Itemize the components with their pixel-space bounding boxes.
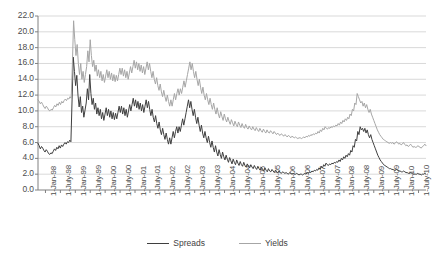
- legend-item-spreads[interactable]: Spreads: [147, 238, 205, 248]
- y-tick-label: 6.0: [0, 138, 34, 147]
- x-tick-label: 1-July-99: [94, 165, 103, 196]
- legend-label-yields: Yields: [265, 238, 288, 248]
- x-tick-label: 1-July-05: [273, 165, 282, 196]
- x-tick-label: 1-Jan-06: [288, 166, 297, 196]
- x-tick-label: 1-July-98: [64, 165, 73, 196]
- x-tick-label: 1-Jan-04: [228, 166, 237, 196]
- x-tick-label: 1-Jan-08: [347, 166, 356, 196]
- x-tick-label: 1-Jan-10: [407, 166, 416, 196]
- x-tick-label: 1-July-00: [124, 165, 133, 196]
- y-tick-label: 22.0: [0, 11, 34, 20]
- y-tick-label: 8.0: [0, 122, 34, 131]
- chart-container: Spreads Yields 0.02.04.06.08.010.012.014…: [0, 0, 435, 258]
- y-tick-label: 20.0: [0, 27, 34, 36]
- chart-legend: Spreads Yields: [0, 238, 435, 248]
- y-tick-label: 10.0: [0, 106, 34, 115]
- y-tick-label: 18.0: [0, 43, 34, 52]
- x-tick-label: 1-July-02: [183, 165, 192, 196]
- legend-swatch-spreads: [147, 243, 169, 244]
- legend-item-yields[interactable]: Yields: [239, 238, 288, 248]
- x-tick-label: 1-Jan-02: [168, 166, 177, 196]
- y-tick-label: 2.0: [0, 169, 34, 178]
- x-tick-label: 1-July-07: [333, 165, 342, 196]
- y-tick-label: 0.0: [0, 185, 34, 194]
- x-tick-label: 1-Jan-00: [109, 166, 118, 196]
- y-tick-label: 12.0: [0, 90, 34, 99]
- chart-plot-area: [0, 0, 435, 258]
- x-tick-label: 1-July-10: [422, 165, 431, 196]
- series-line-spreads: [38, 57, 426, 175]
- x-tick-label: 1-Jan-01: [139, 166, 148, 196]
- series-line-yields: [38, 21, 426, 148]
- x-tick-label: 1-Jan-07: [318, 166, 327, 196]
- x-tick-label: 1-Jan-09: [377, 166, 386, 196]
- legend-swatch-yields: [239, 243, 261, 244]
- x-tick-label: 1-July-03: [213, 165, 222, 196]
- legend-label-spreads: Spreads: [173, 238, 205, 248]
- x-tick-label: 1-July-09: [392, 165, 401, 196]
- x-tick-label: 1-July-08: [362, 165, 371, 196]
- x-tick-label: 1-Jan-98: [49, 166, 58, 196]
- x-tick-label: 1-Jan-03: [198, 166, 207, 196]
- x-tick-label: 1-July-06: [303, 165, 312, 196]
- x-tick-label: 1-Jan-05: [258, 166, 267, 196]
- x-tick-label: 1-July-04: [243, 165, 252, 196]
- y-tick-label: 4.0: [0, 153, 34, 162]
- y-tick-label: 14.0: [0, 74, 34, 83]
- y-tick-label: 16.0: [0, 58, 34, 67]
- x-tick-label: 1-July-01: [153, 165, 162, 196]
- x-tick-label: 1-Jan-99: [79, 166, 88, 196]
